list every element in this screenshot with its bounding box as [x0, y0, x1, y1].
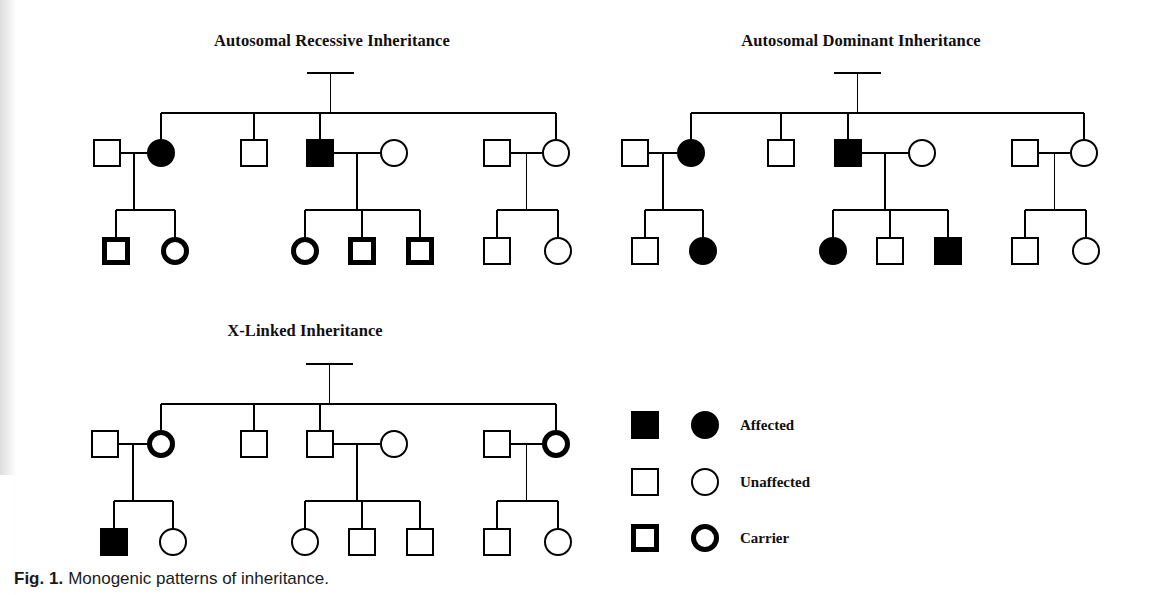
legend-circle-unaffected — [692, 469, 718, 495]
individual-unaffected-male[interactable] — [349, 529, 375, 555]
individual-unaffected-male[interactable] — [877, 238, 903, 264]
individual-carrier-male[interactable] — [409, 240, 432, 263]
legend-square-carrier — [634, 527, 657, 550]
individual-affected-female[interactable] — [690, 238, 716, 264]
caption-figure-text: Monogenic patterns of inheritance. — [68, 569, 329, 588]
individual-unaffected-male[interactable] — [484, 529, 510, 555]
figure-caption: Fig. 1.Monogenic patterns of inheritance… — [14, 569, 329, 589]
legend-label-affected: Affected — [740, 417, 795, 433]
pedigree-title-x-linked: X-Linked Inheritance — [227, 321, 383, 340]
individual-unaffected-male[interactable] — [1012, 238, 1038, 264]
individual-unaffected-male[interactable] — [484, 238, 510, 264]
pedigree-figure: Autosomal Recessive InheritanceAutosomal… — [0, 0, 1151, 595]
individual-unaffected-female[interactable] — [543, 140, 569, 166]
individual-unaffected-female[interactable] — [160, 529, 186, 555]
legend: AffectedUnaffectedCarrier — [632, 412, 811, 550]
spouse-unaffected-male[interactable] — [484, 140, 510, 166]
individual-unaffected-female[interactable] — [292, 529, 318, 555]
caption-figure-number: Fig. 1. — [14, 569, 63, 588]
individual-affected-female[interactable] — [678, 140, 704, 166]
individual-carrier-female[interactable] — [294, 240, 317, 263]
pedigree-autosomal-dominant: Autosomal Dominant Inheritance — [622, 31, 1099, 264]
individual-unaffected-female[interactable] — [545, 529, 571, 555]
legend-circle-carrier — [694, 527, 717, 550]
pedigree-title-autosomal-recessive: Autosomal Recessive Inheritance — [214, 31, 450, 50]
individual-carrier-female[interactable] — [150, 433, 173, 456]
individual-affected-female[interactable] — [820, 238, 846, 264]
legend-circle-affected — [692, 412, 718, 438]
individual-unaffected-male[interactable] — [241, 431, 267, 457]
spouse-unaffected-male[interactable] — [622, 140, 648, 166]
legend-label-unaffected: Unaffected — [740, 474, 811, 490]
spouse-unaffected-female[interactable] — [909, 140, 935, 166]
individual-unaffected-male[interactable] — [407, 529, 433, 555]
spouse-unaffected-male[interactable] — [94, 140, 120, 166]
legend-label-carrier: Carrier — [740, 530, 789, 546]
individual-unaffected-female[interactable] — [1073, 238, 1099, 264]
individual-unaffected-male[interactable] — [768, 140, 794, 166]
individual-unaffected-male[interactable] — [307, 431, 333, 457]
pedigree-title-autosomal-dominant: Autosomal Dominant Inheritance — [741, 31, 981, 50]
spouse-unaffected-male[interactable] — [1012, 140, 1038, 166]
individual-carrier-female[interactable] — [545, 433, 568, 456]
individual-affected-male[interactable] — [835, 140, 861, 166]
individual-affected-male[interactable] — [307, 140, 333, 166]
spouse-unaffected-female[interactable] — [381, 431, 407, 457]
legend-square-affected — [632, 412, 658, 438]
individual-carrier-female[interactable] — [164, 240, 187, 263]
individual-unaffected-male[interactable] — [241, 140, 267, 166]
individual-affected-male[interactable] — [101, 529, 127, 555]
individual-unaffected-female[interactable] — [1071, 140, 1097, 166]
legend-square-unaffected — [632, 469, 658, 495]
individual-carrier-male[interactable] — [105, 240, 128, 263]
individual-affected-male[interactable] — [935, 238, 961, 264]
individual-unaffected-female[interactable] — [545, 238, 571, 264]
spouse-unaffected-male[interactable] — [92, 431, 118, 457]
individual-affected-female[interactable] — [148, 140, 174, 166]
pedigree-x-linked: X-Linked Inheritance — [92, 321, 571, 555]
spouse-unaffected-female[interactable] — [381, 140, 407, 166]
spouse-unaffected-male[interactable] — [484, 431, 510, 457]
individual-unaffected-male[interactable] — [632, 238, 658, 264]
pedigree-autosomal-recessive: Autosomal Recessive Inheritance — [94, 31, 571, 264]
individual-carrier-male[interactable] — [351, 240, 374, 263]
